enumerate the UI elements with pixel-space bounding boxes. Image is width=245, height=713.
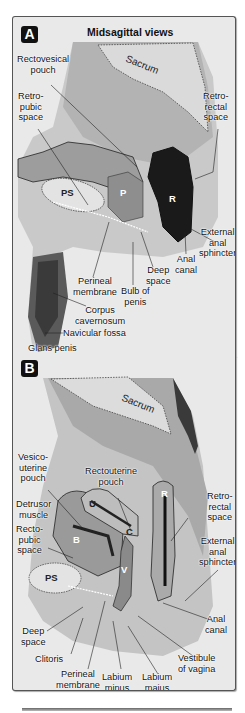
panel-b-vagina-letter: V <box>121 564 127 575</box>
label-bulb-of-penis: Bulb of penis <box>121 286 150 307</box>
label-detrusor-muscle: Detrusor muscle <box>16 499 51 520</box>
label-retropubic-space-a: Retro- pubic space <box>18 91 44 123</box>
panel-a-male-midsagittal: A Midsagittal views Sacrum PS P R Rectov… <box>12 16 236 357</box>
label-corpus-cavernosum: Corpus cavernosum <box>75 305 125 326</box>
panel-a-pubic-symphysis-letter: PS <box>61 187 74 198</box>
label-glans-penis: Glans penis <box>28 343 77 354</box>
label-external-anal-sphincter-b: External anal sphincter <box>199 536 236 568</box>
label-deep-space-a: Deep space <box>146 265 171 286</box>
label-rectovesical-pouch: Rectovesical pouch <box>17 54 69 75</box>
panel-a-badge: A <box>21 26 38 43</box>
label-perineal-membrane-b: Perineal membrane <box>56 669 100 690</box>
panel-b-bladder-letter: B <box>73 534 80 545</box>
panel-a-prostate-letter: P <box>120 187 126 198</box>
label-perineal-membrane-a: Perineal membrane <box>73 276 117 297</box>
label-rectopubic-space: Recto- pubic space <box>16 524 43 556</box>
label-labium-minus: Labium minus <box>102 672 132 691</box>
panel-b-female-midsagittal: B Sacrum PS B U C V R Vesico- uterine po… <box>12 356 236 691</box>
label-retrorectal-space-b: Retro- rectal space <box>207 491 233 523</box>
label-external-anal-sphincter-a: External anal sphincter <box>199 227 236 259</box>
figure-title: Midsagittal views <box>87 26 173 38</box>
label-vesicouterine-pouch: Vesico- uterine pouch <box>18 452 48 484</box>
label-labium-majus: Labium majus <box>142 672 172 691</box>
label-anal-canal-b: Anal canal <box>205 614 227 635</box>
panel-b-pubic-symphysis-letter: PS <box>45 572 58 583</box>
label-anal-canal-a: Anal canal <box>175 254 197 275</box>
panel-b-anatomy-drawing <box>13 356 235 690</box>
panel-b-badge: B <box>21 360 38 377</box>
panel-a-rectum-letter: R <box>169 193 176 204</box>
label-retrorectal-space-a: Retro- rectal space <box>203 91 229 123</box>
panel-b-rectum-letter: R <box>161 488 168 499</box>
label-vestibule-of-vagina: Vestibule of vagina <box>178 653 215 674</box>
panel-b-cervix-letter: C <box>126 526 133 537</box>
bottom-divider <box>22 708 232 711</box>
label-clitoris: Clitoris <box>35 654 63 665</box>
label-navicular-fossa: Navicular fossa <box>63 328 126 339</box>
label-rectouterine-pouch: Rectouterine pouch <box>85 466 137 487</box>
label-deep-space-b: Deep space <box>21 626 46 647</box>
panel-b-uterus-letter: U <box>89 498 96 509</box>
